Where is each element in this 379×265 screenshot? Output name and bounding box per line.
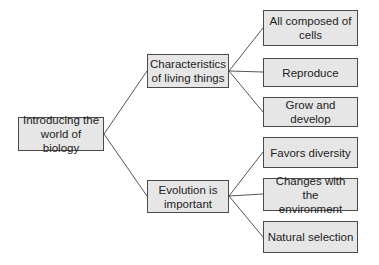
- cells-line2: cells: [299, 29, 322, 41]
- node-changes-with-environment: Changes with theenvironment: [263, 178, 358, 211]
- edge-evo-diversity: [229, 152, 263, 196]
- node-natural-selection: Natural selection: [263, 221, 358, 253]
- edge-char-cells: [229, 28, 263, 71]
- root-line1: Introducing the: [23, 114, 99, 126]
- node-all-composed-of-cells: All composed ofcells: [263, 10, 358, 46]
- environment-line2: environment: [279, 203, 342, 215]
- edge-root-characteristics: [104, 71, 147, 134]
- cells-line1: All composed of: [270, 15, 352, 27]
- selection-label: Natural selection: [268, 230, 354, 244]
- evolution-line1: Evolution is: [159, 184, 218, 196]
- node-characteristics: Characteristicsof living things: [147, 54, 229, 88]
- edge-evo-environment: [229, 194, 263, 196]
- characteristics-line2: of living things: [152, 72, 225, 84]
- root-line2: world of biology: [41, 128, 81, 154]
- diversity-label: Favors diversity: [270, 146, 351, 160]
- node-favors-diversity: Favors diversity: [263, 137, 358, 168]
- edge-root-evolution: [104, 134, 147, 196]
- characteristics-line1: Characteristics: [150, 58, 226, 70]
- node-reproduce: Reproduce: [263, 58, 358, 87]
- edge-char-grow: [229, 71, 263, 112]
- evolution-line2: important: [164, 198, 212, 210]
- root-node: Introducing theworld of biology: [18, 117, 104, 151]
- edge-char-reproduce: [229, 71, 263, 72]
- edge-evo-selection: [229, 196, 263, 237]
- reproduce-label: Reproduce: [282, 66, 338, 80]
- node-evolution: Evolution isimportant: [147, 180, 229, 213]
- node-grow-and-develop: Grow and develop: [263, 97, 358, 127]
- environment-line1: Changes with the: [276, 175, 346, 201]
- grow-label: Grow and develop: [267, 98, 354, 126]
